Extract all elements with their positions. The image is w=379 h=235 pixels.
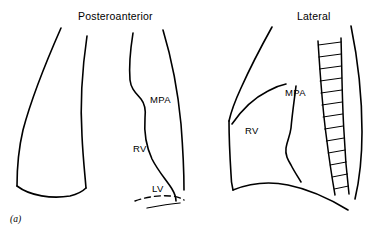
lat-spine-vertebrae bbox=[318, 42, 348, 189]
lat-vertebra-rung bbox=[334, 186, 348, 189]
lat-spine-posterior-rail bbox=[341, 38, 349, 194]
lat-vertebra-rung bbox=[328, 150, 345, 153]
lat-posterior-heart-border bbox=[286, 86, 301, 182]
figure-caption: (a) bbox=[10, 214, 21, 225]
lat-vertebra-rung bbox=[325, 126, 344, 129]
lat-vertebra-rung bbox=[318, 42, 341, 45]
lat-vertebra-rung bbox=[330, 162, 346, 165]
lat-vertebra-rung bbox=[319, 66, 341, 69]
pa-label-rv: RV bbox=[133, 143, 147, 154]
lat-vertebra-rung bbox=[319, 54, 342, 57]
pa-left-chest-wall bbox=[163, 30, 184, 190]
pa-right-heart-border bbox=[81, 36, 87, 188]
lat-spine-anterior-rail bbox=[318, 41, 335, 195]
panel-title-posteroanterior: Posteroanterior bbox=[78, 10, 153, 22]
lat-vertebra-rung bbox=[320, 78, 342, 81]
pa-label-mpa: MPA bbox=[150, 94, 171, 105]
pa-right-chest-wall bbox=[17, 28, 61, 186]
lat-vertebra-rung bbox=[321, 90, 342, 93]
lat-label-rv: RV bbox=[245, 125, 259, 136]
lat-diaphragm bbox=[233, 183, 348, 210]
lat-vertebra-rung bbox=[332, 174, 347, 177]
lat-vertebra-rung bbox=[322, 102, 342, 105]
pa-apex-tail bbox=[147, 203, 180, 208]
lat-vertebra-rung bbox=[323, 114, 343, 117]
lat-posterior-chest-wall bbox=[351, 26, 362, 199]
pa-right-diaphragm bbox=[17, 186, 86, 197]
panel-posteroanterior: Posteroanterior MPA RV LV bbox=[17, 10, 184, 208]
lat-vertebra-rung bbox=[326, 138, 344, 141]
lat-label-mpa: MPA bbox=[285, 87, 306, 98]
pa-cardiac-silhouette bbox=[130, 33, 176, 201]
panel-title-lateral: Lateral bbox=[297, 10, 331, 22]
figure-canvas: Posteroanterior MPA RV LV bbox=[0, 0, 379, 235]
chest-radiograph-figure: Posteroanterior MPA RV LV bbox=[0, 0, 379, 235]
lat-anterior-chest-wall bbox=[229, 27, 272, 121]
lat-rv-anterior-border bbox=[229, 121, 233, 190]
panel-lateral: Lateral MPA RV bbox=[229, 10, 362, 210]
pa-label-lv: LV bbox=[152, 183, 164, 194]
